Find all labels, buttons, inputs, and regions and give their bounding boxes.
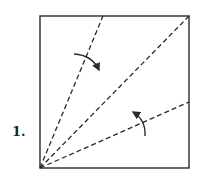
origami-diagram — [0, 0, 201, 182]
fold-arrow-upper-icon — [74, 54, 99, 70]
lower-valley-fold-line — [40, 102, 189, 168]
diagonal-valley-fold-line — [40, 16, 189, 168]
upper-valley-fold-line — [40, 16, 103, 168]
